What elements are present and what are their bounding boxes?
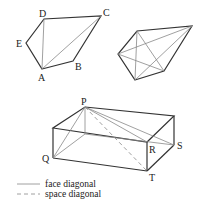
cuboid-figure: P Q R S T	[42, 96, 183, 183]
label-P: P	[81, 96, 87, 107]
cuboid-top-face	[53, 107, 174, 142]
label-R: R	[149, 144, 156, 155]
legend-face-label: face diagonal	[45, 179, 96, 189]
space-diagonal-PT	[85, 107, 147, 171]
label-S: S	[177, 140, 183, 151]
pentagon-figure-2	[118, 26, 192, 80]
diagonal	[135, 26, 192, 80]
edge	[53, 158, 147, 171]
diagonal-AD	[42, 19, 44, 69]
label-Q: Q	[42, 153, 50, 164]
label-T: T	[149, 172, 155, 183]
pentagon-figure-1: A B C D E	[16, 7, 110, 83]
label-D: D	[39, 8, 46, 19]
label-C: C	[103, 7, 110, 18]
legend-space-label: space diagonal	[45, 189, 102, 199]
hidden-edge	[53, 134, 85, 158]
label-E: E	[16, 38, 22, 49]
diagonals-diagram: A B C D E P Q R S T	[0, 0, 202, 200]
label-A: A	[38, 72, 46, 83]
label-B: B	[75, 61, 82, 72]
diagonal	[135, 31, 137, 80]
pentagon-outline	[26, 16, 101, 69]
legend: face diagonal space diagonal	[17, 179, 102, 199]
pentagon-outline-2	[118, 26, 192, 80]
diagonal	[118, 54, 164, 71]
